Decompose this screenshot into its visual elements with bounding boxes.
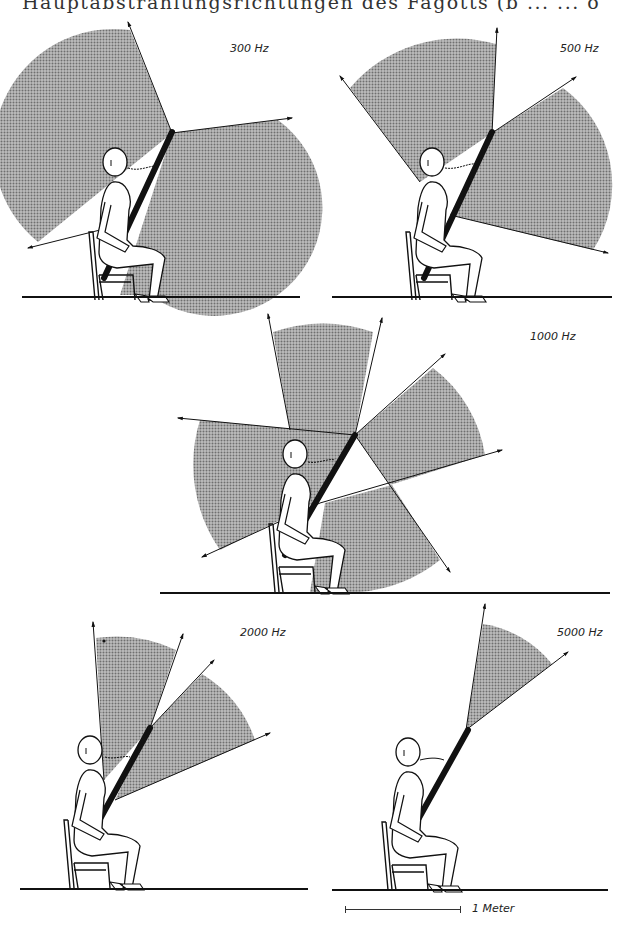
page-caption-fragment: Hauptabstrahlungsrichtungen des Fagotts … [22,0,600,13]
panel-5000hz: 5000 Hz [320,600,633,895]
panel-1000hz: 1000 Hz [160,310,633,600]
radiation-diagram-300hz [0,20,310,305]
frequency-label: 2000 Hz [240,626,286,639]
radiation-diagram-5000hz [320,600,633,895]
panel-300hz: 300 Hz [0,20,310,305]
frequency-label: 300 Hz [230,42,269,55]
scale-label: 1 Meter [472,902,514,915]
radiation-diagram-2000hz [0,600,320,895]
frequency-label: 5000 Hz [557,626,603,639]
panel-2000hz: 2000 Hz [0,600,320,895]
scale-tick-right [460,906,461,913]
radiation-diagram-1000hz [160,310,633,600]
radiation-diagram-500hz [320,20,633,305]
frequency-label: 500 Hz [560,42,599,55]
panel-500hz: 500 Hz [320,20,633,305]
frequency-label: 1000 Hz [530,330,576,343]
scale-line [345,909,460,910]
